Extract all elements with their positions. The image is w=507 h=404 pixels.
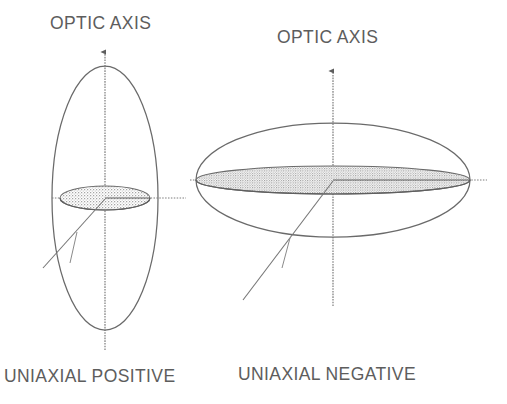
optic-axis-label-right: OPTIC AXIS xyxy=(277,27,378,48)
leader-line-right xyxy=(243,181,333,300)
figure-uniaxial-positive xyxy=(43,52,186,350)
figure-caption-uniaxial-negative: UNIAXIAL NEGATIVE xyxy=(238,364,416,385)
optic-axis-label-left: OPTIC AXIS xyxy=(50,13,151,34)
figure-caption-uniaxial-positive: UNIAXIAL POSITIVE xyxy=(4,366,175,387)
diagram-canvas xyxy=(0,0,507,404)
figure-uniaxial-negative xyxy=(190,71,487,306)
